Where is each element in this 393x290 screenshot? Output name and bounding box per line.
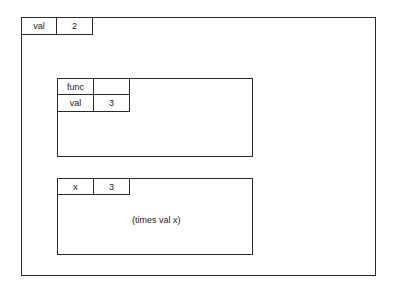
binding-name-cell: func (57, 78, 94, 95)
binding-value-cell: 2 (56, 17, 93, 35)
binding-name-cell: val (21, 17, 57, 35)
binding-name-cell: x (57, 178, 94, 195)
binding-value-cell: 3 (93, 94, 130, 112)
binding-value-cell (93, 78, 130, 95)
binding-name-cell: val (57, 94, 94, 112)
body-expression: (times val x) (132, 215, 181, 225)
binding-value-cell: 3 (93, 178, 130, 195)
